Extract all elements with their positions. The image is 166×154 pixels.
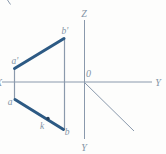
label-b-prime: b' [62, 26, 70, 36]
diagram-canvas: Z Y Y X 0 a' b' a b k [0, 0, 166, 154]
origin-label: 0 [86, 68, 91, 79]
projection-diagram: Z Y Y X 0 a' b' a b k [0, 0, 166, 154]
y-axis-bottom-label: Y [81, 142, 88, 153]
point-k-dot [46, 117, 49, 120]
x-diagonal-axis-line [85, 83, 135, 132]
label-a-prime: a' [12, 56, 20, 66]
stray-mark [8, 0, 11, 5]
z-axis-label: Z [81, 8, 87, 19]
label-k: k [40, 121, 45, 131]
label-a: a [8, 97, 13, 107]
y-axis-right-label: Y [155, 77, 162, 88]
segment-aprime-bprime [15, 39, 65, 69]
label-b: b [65, 127, 70, 137]
